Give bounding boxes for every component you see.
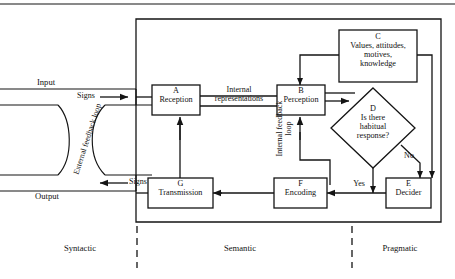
node-f-name: Encoding — [285, 188, 316, 197]
node-d-line3: response? — [338, 132, 408, 141]
edge-internal-feedback-path — [300, 132, 330, 185]
node-g-label: G Transmission — [148, 180, 213, 198]
edge-label-no: No — [400, 152, 418, 161]
node-c-label: C Values, attitudes, motives, knowledge — [339, 33, 417, 68]
zone-label-pragmatic: Pragmatic — [355, 244, 445, 253]
internal-representations-line2: representations — [215, 94, 263, 103]
node-f-label: F Encoding — [274, 180, 327, 198]
zone-label-semantic: Semantic — [195, 244, 285, 253]
edge-label-internal-representations: Internal representations — [205, 86, 273, 103]
io-label-input: Input — [26, 78, 66, 87]
node-e-name: Decider — [396, 188, 422, 197]
node-g-name: Transmission — [159, 188, 203, 197]
edge-label-signs-out: Signs — [129, 178, 157, 187]
node-a-name: Reception — [159, 95, 192, 104]
edge-label-yes: Yes — [349, 180, 369, 189]
io-label-output: Output — [26, 192, 68, 201]
edge-c-to-b — [300, 55, 339, 85]
node-c-line3: knowledge — [339, 60, 417, 69]
zone-label-syntactic: Syntactic — [35, 244, 125, 253]
node-a-label: A Reception — [152, 87, 200, 105]
edge-label-internal-feedback-loop: Internal feedback loop — [276, 94, 293, 164]
external-loop-arc-outer — [58, 105, 69, 175]
edge-d-no-to-e — [401, 145, 420, 178]
node-e-label: E Decider — [386, 180, 431, 198]
diagram-canvas: A Reception B Perception C Values, attit… — [0, 0, 455, 279]
edge-c-to-e — [417, 55, 432, 178]
signs-arrows — [100, 97, 128, 183]
node-d-label: D Is there habitual response? — [338, 105, 408, 140]
